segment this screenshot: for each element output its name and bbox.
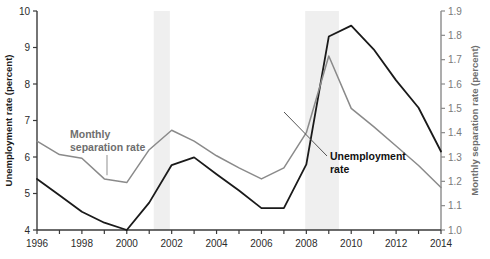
x-tick-label: 2008 [295,238,318,249]
x-tick-label: 2004 [205,238,228,249]
left-axis-title: Unemployment rate (percent) [3,55,14,187]
right-tick-label: 1.2 [448,176,462,187]
left-tick-label: 5 [24,188,30,199]
monthly-separation-rate-label-line1: Monthly [70,128,110,140]
right-axis-title: Monthly separation rate (percent) [469,45,480,195]
right-tick-label: 1.9 [448,6,462,17]
x-tick-label: 2000 [116,238,139,249]
right-tick-label: 1.1 [448,200,462,211]
chart-container: 456789101.01.11.21.31.41.51.61.71.81.919… [0,0,490,259]
left-tick-label: 7 [24,115,30,126]
x-tick-label: 1998 [71,238,94,249]
x-tick-label: 1996 [26,238,49,249]
x-tick-label: 2006 [250,238,273,249]
unemployment-rate-label-line2: rate [330,163,349,175]
right-tick-label: 1.3 [448,152,462,163]
left-tick-label: 8 [24,79,30,90]
right-tick-label: 1.6 [448,79,462,90]
unemployment-rate-label-line1: Unemployment [330,150,406,162]
left-tick-label: 9 [24,42,30,53]
right-tick-label: 1.5 [448,103,462,114]
right-tick-label: 1.7 [448,54,462,65]
right-tick-label: 1.4 [448,127,462,138]
right-tick-label: 1.8 [448,30,462,41]
x-tick-label: 2014 [430,238,453,249]
left-tick-label: 10 [19,6,31,17]
x-tick-label: 2012 [385,238,408,249]
left-tick-label: 4 [24,225,30,236]
left-tick-label: 6 [24,152,30,163]
right-tick-label: 1.0 [448,225,462,236]
recession-2001 [154,11,170,230]
monthly-separation-rate-label-line2: separation rate [70,141,145,153]
x-tick-label: 2010 [340,238,363,249]
x-tick-label: 2002 [161,238,184,249]
dual-axis-line-chart: 456789101.01.11.21.31.41.51.61.71.81.919… [0,0,490,259]
